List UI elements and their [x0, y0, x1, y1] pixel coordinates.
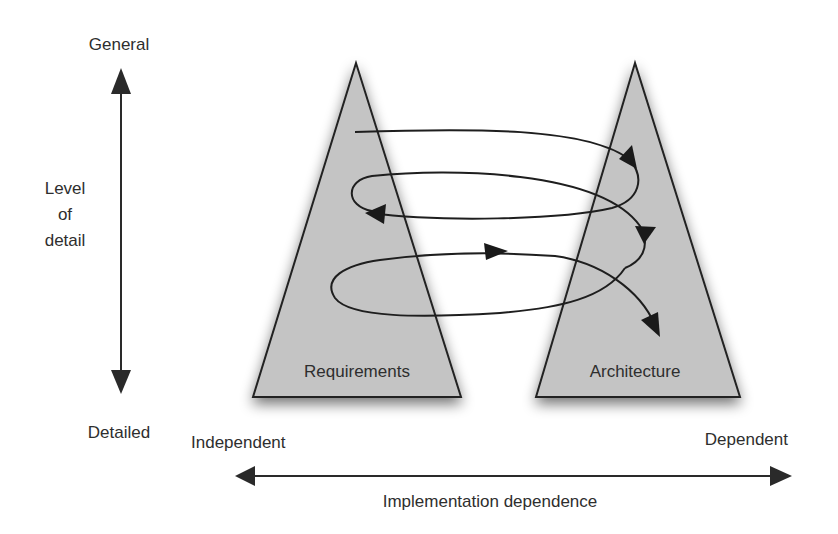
- implementation-dependence-label: Implementation dependence: [383, 492, 598, 511]
- twin-peaks-diagram: General Detailed Level of detail Require…: [0, 0, 838, 534]
- requirements-triangle: [253, 63, 461, 397]
- dependent-label: Dependent: [705, 430, 788, 449]
- detailed-label: Detailed: [88, 423, 150, 442]
- level-of-detail-line3: detail: [45, 231, 86, 250]
- independent-label: Independent: [191, 433, 286, 452]
- vertical-axis: General Detailed Level of detail: [45, 35, 151, 442]
- architecture-label: Architecture: [590, 362, 681, 381]
- requirements-label: Requirements: [304, 362, 410, 381]
- arrow-left-icon: [235, 466, 255, 486]
- level-of-detail-line1: Level: [45, 179, 86, 198]
- arrow-right-icon: [770, 466, 792, 486]
- level-of-detail-line2: of: [58, 205, 72, 224]
- horizontal-axis: Independent Dependent Implementation dep…: [191, 430, 792, 511]
- arrow-up-icon: [111, 68, 131, 94]
- arrow-right-icon: [484, 243, 508, 260]
- general-label: General: [89, 35, 149, 54]
- arrow-down-icon: [111, 370, 131, 394]
